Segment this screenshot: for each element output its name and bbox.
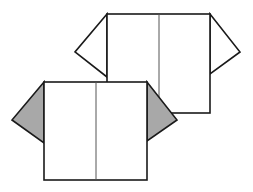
- front-shirt-shape: [12, 82, 177, 180]
- back-left-sleeve: [75, 14, 107, 77]
- front-left-sleeve: [12, 82, 44, 143]
- origami-diagram: [0, 0, 253, 192]
- back-right-sleeve: [210, 14, 240, 74]
